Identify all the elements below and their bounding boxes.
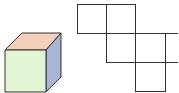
net-square-2 xyxy=(107,5,136,34)
net-square-4 xyxy=(136,34,166,63)
net-square-5 xyxy=(136,63,166,92)
diagram-canvas xyxy=(0,0,178,93)
cube-front-face xyxy=(5,50,46,92)
net-square-1 xyxy=(78,5,107,34)
cube xyxy=(5,33,61,92)
net-square-3 xyxy=(107,34,136,63)
net-square-6 xyxy=(166,34,179,63)
cube-net xyxy=(78,5,179,92)
